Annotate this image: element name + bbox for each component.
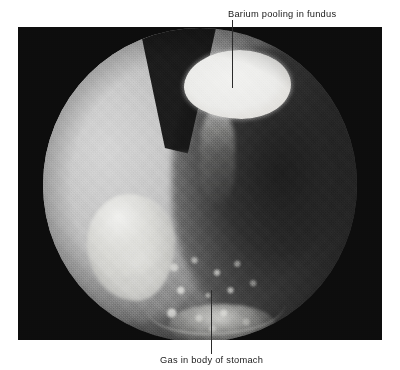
radiograph-image — [18, 27, 382, 340]
barium-streak-cardia — [200, 110, 235, 204]
leader-line-gas-body — [211, 290, 212, 354]
leader-line-barium-pooling — [232, 20, 233, 88]
figure-root: Barium pooling in fundus Gas in body of … — [0, 0, 400, 370]
fluoroscopy-circular-field — [43, 28, 357, 340]
annotation-label-barium-pooling: Barium pooling in fundus — [228, 9, 336, 20]
annotation-label-gas-body: Gas in body of stomach — [160, 355, 263, 366]
antral-barium — [169, 304, 276, 340]
barium-pool-fundus — [184, 50, 291, 119]
